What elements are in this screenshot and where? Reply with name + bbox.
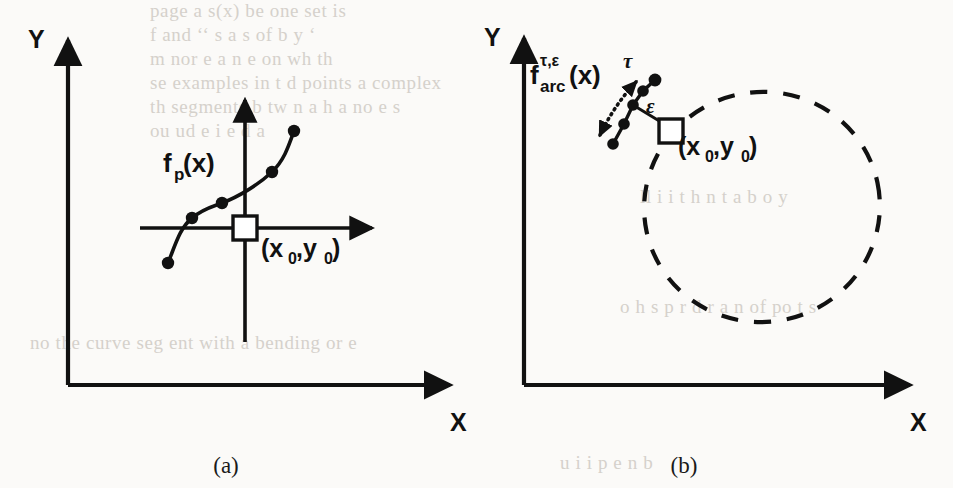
panel-b-tau-label: τ (623, 49, 633, 73)
panel-b-point-label-comma: ,y (713, 132, 734, 160)
panel-b-dashed-loop (623, 70, 902, 344)
panel-a-x-axis-label: X (450, 408, 467, 436)
panel-b-point-label: (x 0 ,y 0 ) (678, 132, 757, 165)
panel-a-point-label-close: ) (332, 234, 340, 262)
panel-a-sample-point (162, 257, 174, 269)
panel-b-function-label: f τ,ε arc (x) (530, 52, 601, 96)
figure-svg: Y X f p (x) (x 0 (0, 0, 953, 488)
panel-b: Y X f τ,ε arc (x) (484, 23, 927, 478)
panel-a-function-label-base: f (163, 148, 172, 178)
panel-b-point-label-open: (x (678, 132, 700, 160)
panel-b-function-label-subscript: arc (540, 77, 566, 96)
panel-a-point-label-comma: ,y (296, 234, 317, 262)
panel-a-sample-point (266, 166, 278, 178)
panel-b-caption: (b) (671, 453, 698, 478)
panel-b-point-label-close: ) (749, 132, 757, 160)
panel-b-epsilon-label: ε (646, 94, 655, 118)
panel-a-y-axis-label: Y (28, 25, 45, 53)
panel-b-sample-point (607, 138, 619, 150)
panel-a-function-label: f p (x) (163, 148, 215, 184)
panel-b-sample-point (618, 118, 630, 130)
panel-a-point-label: (x 0 ,y 0 ) (261, 234, 340, 267)
panel-b-function-label-argument: (x) (569, 60, 601, 90)
panel-a-sample-point (186, 212, 198, 224)
panel-a-sample-point (288, 125, 300, 137)
panel-b-y-axis-label: Y (484, 23, 501, 51)
panel-a-function-label-argument: (x) (183, 148, 215, 178)
panel-a: Y X f p (x) (x 0 (28, 25, 467, 478)
panel-a-caption: (a) (213, 453, 239, 478)
panel-a-point-label-open: (x (261, 234, 283, 262)
panel-b-x-axis-label: X (910, 408, 927, 436)
panel-b-sample-point (649, 74, 662, 87)
panel-b-function-label-superscript: τ,ε (540, 52, 560, 69)
panel-a-origin-square-marker (233, 216, 257, 240)
panel-a-sample-point (216, 197, 228, 209)
figure-page: page a s(x) be one set is f and ‘‘ s a s… (0, 0, 953, 488)
panel-b-function-label-base: f (530, 60, 539, 90)
